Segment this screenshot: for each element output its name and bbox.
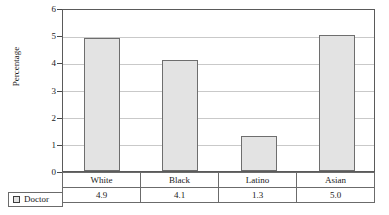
table-value-row: 4.94.11.35.0	[63, 188, 375, 203]
table-header-row: WhiteBlackLatinoAsian	[63, 173, 375, 188]
bar-latino[interactable]	[241, 136, 277, 171]
legend-label: Doctor	[24, 195, 49, 204]
y-tick-mark	[57, 145, 62, 146]
table-value-cell: 5.0	[297, 188, 375, 203]
y-tick-mark	[57, 118, 62, 119]
y-tick-mark	[57, 63, 62, 64]
y-tick-label: 6	[32, 5, 56, 14]
doctor-series-swatch	[13, 196, 20, 203]
y-tick-label: 2	[32, 114, 56, 123]
y-tick-mark	[57, 172, 62, 173]
table-value-cell: 4.9	[63, 188, 141, 203]
bar-black[interactable]	[162, 60, 198, 171]
bar-chart-figure: Percentage WhiteBlackLatinoAsian 4.94.11…	[0, 0, 389, 215]
table-value-cell: 1.3	[219, 188, 297, 203]
y-tick-label: 3	[32, 87, 56, 96]
plot-area	[62, 9, 375, 172]
table-header-cell: Asian	[297, 173, 375, 188]
bar-white[interactable]	[84, 38, 120, 171]
y-tick-label: 4	[32, 59, 56, 68]
bar-asian[interactable]	[319, 35, 355, 171]
data-table: WhiteBlackLatinoAsian 4.94.11.35.0	[62, 172, 375, 203]
y-tick-mark	[57, 91, 62, 92]
y-tick-mark	[57, 9, 62, 10]
table-value-cell: 4.1	[141, 188, 219, 203]
legend[interactable]: Doctor	[8, 192, 63, 207]
y-tick-mark	[57, 36, 62, 37]
table-header-cell: Black	[141, 173, 219, 188]
y-tick-label: 5	[32, 32, 56, 41]
table-header-cell: Latino	[219, 173, 297, 188]
table-header-cell: White	[63, 173, 141, 188]
y-axis-title: Percentage	[12, 27, 21, 107]
y-tick-label: 0	[32, 168, 56, 177]
y-tick-label: 1	[32, 141, 56, 150]
